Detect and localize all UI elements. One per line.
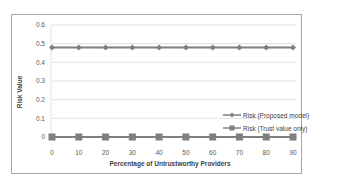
data-point [290,134,297,141]
y-tick-label: 0.3 [36,77,45,84]
x-tick-label: 20 [102,149,110,156]
x-tick-label: 70 [236,149,244,156]
x-tick-label: 90 [289,149,297,156]
line-chart: 00.10.20.30.40.50.6 0102030405060708090 … [0,0,339,178]
diamond-marker-icon [230,113,235,118]
square-marker-icon [230,126,235,131]
data-point [263,134,270,141]
x-tick-label: 60 [209,149,217,156]
data-point [102,134,109,141]
y-axis-ticks: 00.10.20.30.40.50.6 [36,21,45,140]
x-tick-label: 80 [263,149,271,156]
data-point [209,134,216,141]
data-point [103,44,109,50]
x-tick-label: 10 [75,149,83,156]
y-tick-label: 0.2 [36,96,45,103]
x-tick-label: 30 [129,149,137,156]
data-point [156,134,163,141]
data-point [49,134,56,141]
data-point [263,44,269,50]
data-point [236,44,242,50]
x-tick-label: 50 [182,149,190,156]
data-point [182,134,189,141]
data-point [76,44,82,50]
legend-proposed: Risk (Proposed model) [243,112,309,120]
y-tick-label: 0.1 [36,115,45,122]
legend-trust: Risk (Trust value only) [243,125,307,133]
data-point [290,44,296,50]
data-point [49,44,55,50]
data-point [129,44,135,50]
y-axis-title: Risk Value [16,75,23,108]
data-point [75,134,82,141]
gridlines [51,25,296,137]
x-tick-label: 0 [50,149,54,156]
x-axis-ticks: 0102030405060708090 [50,149,297,156]
legend: Risk (Proposed model) Risk (Trust value … [223,112,309,133]
y-tick-label: 0 [41,133,45,140]
x-axis-title: Percentage of Untrustworthy Providers [110,160,231,168]
y-tick-label: 0.6 [36,21,45,28]
data-point [236,134,243,141]
data-point [156,44,162,50]
y-tick-label: 0.5 [36,40,45,47]
x-tick-label: 40 [155,149,163,156]
data-point [210,44,216,50]
y-tick-label: 0.4 [36,59,45,66]
data-point [129,134,136,141]
data-point [183,44,189,50]
